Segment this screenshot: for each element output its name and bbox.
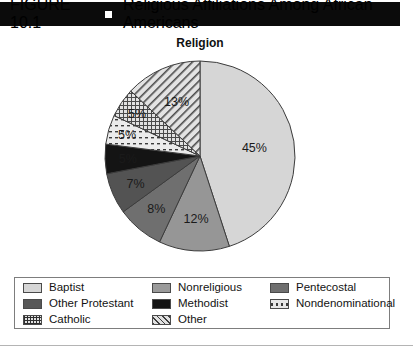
- square-bullet-icon: [105, 11, 112, 18]
- pie-slice-value-label: 5%: [118, 128, 136, 142]
- legend-item-label: Baptist: [49, 282, 84, 294]
- legend-swatch-methodist: [152, 299, 171, 309]
- figure-header-bar: FIGURE 10.1 Religious Affiliations Among…: [0, 2, 400, 26]
- legend-item: Other: [152, 312, 270, 328]
- legend-item-label: Nondenominational: [296, 298, 395, 310]
- legend-swatch-nonreligious: [152, 283, 171, 293]
- legend-swatch-other-protestant: [23, 299, 42, 309]
- legend-item-label: Methodist: [178, 298, 228, 310]
- pie-slice-value-label: 7%: [126, 177, 144, 191]
- legend-item: Nondenominational: [270, 296, 395, 312]
- legend-item: Catholic: [23, 312, 152, 328]
- legend-item-label: Pentecostal: [296, 282, 356, 294]
- legend-swatch-nondenominational: [270, 299, 289, 309]
- pie-chart: 45%12%8%7%5%5%5%13%: [103, 57, 297, 265]
- figure-number: FIGURE 10.1: [10, 0, 91, 32]
- pie-slice-value-label: 8%: [147, 202, 165, 216]
- pie-slice-value-label: 5%: [119, 152, 137, 166]
- figure-bottom-rule: [0, 345, 413, 346]
- legend-item: Methodist: [152, 296, 270, 312]
- legend-item: Nonreligious: [152, 280, 270, 296]
- legend-item: Other Protestant: [23, 296, 152, 312]
- legend-swatch-pentecostal: [270, 283, 289, 293]
- legend-item-label: Other: [178, 314, 207, 326]
- pie-slice-value-label: 45%: [242, 141, 267, 155]
- chart-title: Religion: [0, 36, 400, 50]
- legend-swatch-baptist: [23, 283, 42, 293]
- legend-swatch-other: [152, 315, 171, 325]
- legend-item-label: Catholic: [49, 314, 91, 326]
- chart-legend: BaptistNonreligiousPentecostalOther Prot…: [14, 277, 390, 329]
- legend-item-label: Nonreligious: [178, 282, 242, 294]
- legend-item: Baptist: [23, 280, 152, 296]
- legend-grid: BaptistNonreligiousPentecostalOther Prot…: [15, 278, 389, 328]
- legend-swatch-catholic: [23, 315, 42, 325]
- figure-title: Religious Affiliations Among African Ame…: [123, 0, 400, 32]
- pie-slice-value-label: 12%: [184, 212, 209, 226]
- legend-item: Pentecostal: [270, 280, 395, 296]
- pie-slice-value-label: 5%: [128, 107, 146, 121]
- pie-slice-value-label: 13%: [164, 95, 189, 109]
- legend-item-label: Other Protestant: [49, 298, 133, 310]
